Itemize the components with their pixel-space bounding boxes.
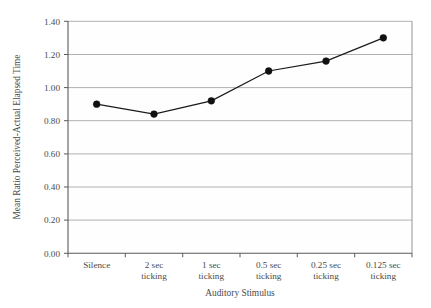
data-point — [208, 97, 215, 104]
y-tick-label: 1.20 — [44, 50, 60, 60]
x-tick-label-line2: ticking — [256, 271, 282, 281]
x-tick-label: 0.125 sec — [366, 260, 401, 270]
x-tick-label: Silence — [83, 260, 110, 270]
x-tick-label-line2: ticking — [199, 271, 225, 281]
data-point — [93, 101, 100, 108]
data-point — [265, 68, 272, 75]
x-axis-tickmarks — [68, 253, 412, 257]
y-tick-label: 0.40 — [44, 182, 60, 192]
y-tick-label: 0.00 — [44, 249, 60, 259]
x-tick-label-line2: ticking — [141, 271, 167, 281]
x-tick-label: 0.25 sec — [311, 260, 341, 270]
chart-figure: 1.40 1.20 1.00 0.80 0.60 0.40 0.20 0.00 … — [0, 0, 431, 308]
x-tick-label: 2 sec — [145, 260, 164, 270]
y-axis-title: Mean Ratio Perceived-Actual Elapsed Time — [12, 54, 22, 219]
x-tick-label: 1 sec — [202, 260, 221, 270]
y-axis-tick-labels: 1.40 1.20 1.00 0.80 0.60 0.40 0.20 0.00 — [44, 17, 60, 259]
plot-area-background — [68, 21, 412, 253]
y-tick-label: 1.40 — [44, 17, 60, 27]
line-chart: 1.40 1.20 1.00 0.80 0.60 0.40 0.20 0.00 … — [0, 0, 431, 308]
x-axis-title: Auditory Stimulus — [205, 288, 275, 298]
x-tick-label-line2: ticking — [371, 271, 397, 281]
y-axis-tickmarks — [64, 21, 68, 253]
data-point — [380, 34, 387, 41]
y-tick-label: 0.20 — [44, 215, 60, 225]
y-tick-label: 1.00 — [44, 83, 60, 93]
data-point — [323, 58, 330, 65]
x-axis-tick-labels: Silence 2 sec ticking 1 sec ticking 0.5 … — [83, 260, 400, 281]
y-tick-label: 0.80 — [44, 116, 60, 126]
y-tick-label: 0.60 — [44, 149, 60, 159]
x-tick-label: 0.5 sec — [256, 260, 282, 270]
data-point — [151, 111, 158, 118]
x-tick-label-line2: ticking — [313, 271, 339, 281]
